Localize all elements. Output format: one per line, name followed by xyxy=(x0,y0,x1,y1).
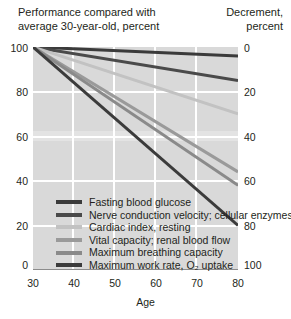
legend-item: Vital capacity; renal blood flow xyxy=(56,234,261,247)
y-axis-tick: 60 xyxy=(2,131,28,143)
y-axis-tick: 40 xyxy=(2,175,28,187)
legend-item: Maximum work rate, O₂ uptake xyxy=(56,259,261,272)
y2-axis-tick: 40 xyxy=(244,131,270,143)
x-axis-tick: 30 xyxy=(20,277,46,289)
legend-label: Maximum work rate, O₂ uptake xyxy=(89,259,233,272)
y-axis-tick: 0 xyxy=(2,259,28,271)
legend-label: Nerve conduction velocity; cellular enzy… xyxy=(89,209,291,222)
legend-swatch xyxy=(56,251,82,255)
legend-swatch xyxy=(56,238,82,242)
chart-left-axis-title: Performance compared with average 30-yea… xyxy=(18,6,188,33)
legend-item: Cardiac index, resting xyxy=(56,221,261,234)
legend-swatch xyxy=(56,263,82,267)
legend-label: Fasting blood glucose xyxy=(89,196,191,209)
series-line xyxy=(33,47,238,114)
legend-item: Nerve conduction velocity; cellular enzy… xyxy=(56,209,261,222)
legend-swatch xyxy=(56,200,82,204)
chart-figure: Performance compared with average 30-yea… xyxy=(0,0,291,319)
y2-axis-tick: 20 xyxy=(244,86,270,98)
y-axis-tick: 20 xyxy=(2,220,28,232)
x-axis-tick: 80 xyxy=(225,277,251,289)
legend-label: Cardiac index, resting xyxy=(89,221,191,234)
x-axis-tick: 60 xyxy=(143,277,169,289)
y2-axis-tick: 60 xyxy=(244,175,270,187)
series-line xyxy=(33,47,238,172)
x-axis-tick: 70 xyxy=(184,277,210,289)
y2-axis-tick: 0 xyxy=(244,42,270,54)
chart-legend: Fasting blood glucoseNerve conduction ve… xyxy=(56,196,261,272)
legend-item: Fasting blood glucose xyxy=(56,196,261,209)
series-line xyxy=(33,47,238,185)
y-axis-tick: 100 xyxy=(2,42,28,54)
legend-label: Maximum breathing capacity xyxy=(89,246,223,259)
chart-right-axis-title: Decrement, percent xyxy=(191,6,283,33)
legend-label: Vital capacity; renal blood flow xyxy=(89,234,230,247)
x-axis-tick: 40 xyxy=(61,277,87,289)
y-axis-tick: 80 xyxy=(2,86,28,98)
legend-swatch xyxy=(56,213,82,217)
legend-swatch xyxy=(56,225,82,229)
legend-item: Maximum breathing capacity xyxy=(56,246,261,259)
x-axis-label: Age xyxy=(0,296,291,308)
x-axis-tick: 50 xyxy=(102,277,128,289)
